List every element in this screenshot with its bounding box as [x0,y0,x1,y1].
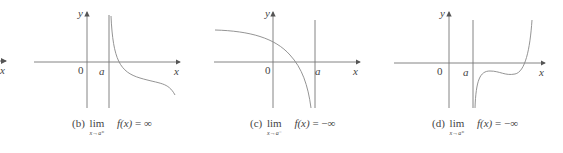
limit-operator: lim x→a⁺ [90,117,105,129]
function-curve [475,20,532,108]
caption-label: (b) [72,117,85,129]
function-expression: f(x) [477,117,492,129]
a-label: a [99,65,105,77]
origin-label: 0 [265,64,271,76]
y-axis-label: y [439,7,445,19]
panel-c-graph: 0 a x y [214,7,360,108]
limit-value: = −∞ [495,117,518,129]
limit-subscript: x→a⁺ [450,129,465,136]
limit-subscript: x→a⁻ [267,129,282,136]
limit-operator: lim x→a⁻ [267,117,282,129]
panel-a-partial: x [0,61,6,76]
x-axis-label: x [173,65,179,77]
function-curve [111,16,175,95]
y-axis-label: y [77,7,83,19]
x-axis-label: x [0,64,5,76]
caption-b: (b) lim x→a⁺ f(x) = ∞ [72,117,152,129]
lim-text: lim [90,117,105,129]
origin-label: 0 [78,64,84,76]
function-curve [215,30,311,108]
limit-value: = −∞ [312,117,335,129]
panel-d-graph: 0 a x y [394,7,545,108]
limit-subscript: x→a⁺ [90,129,105,136]
lim-text: lim [450,117,465,129]
limit-value: = ∞ [135,117,152,129]
a-label: a [463,66,469,78]
caption-label: (c) [250,117,262,129]
origin-label: 0 [437,65,443,77]
function-expression: f(x) [294,117,309,129]
y-axis-label: y [264,7,270,19]
x-axis-label: x [352,65,358,77]
limit-operator: lim x→a⁺ [450,117,465,129]
a-label: a [315,65,321,77]
caption-label: (d) [432,117,445,129]
function-expression: f(x) [117,117,132,129]
caption-c: (c) lim x→a⁻ f(x) = −∞ [250,117,335,129]
caption-d: (d) lim x→a⁺ f(x) = −∞ [432,117,518,129]
panel-b-graph: 0 a x y [34,7,180,108]
x-axis-label: x [538,66,544,78]
lim-text: lim [267,117,282,129]
